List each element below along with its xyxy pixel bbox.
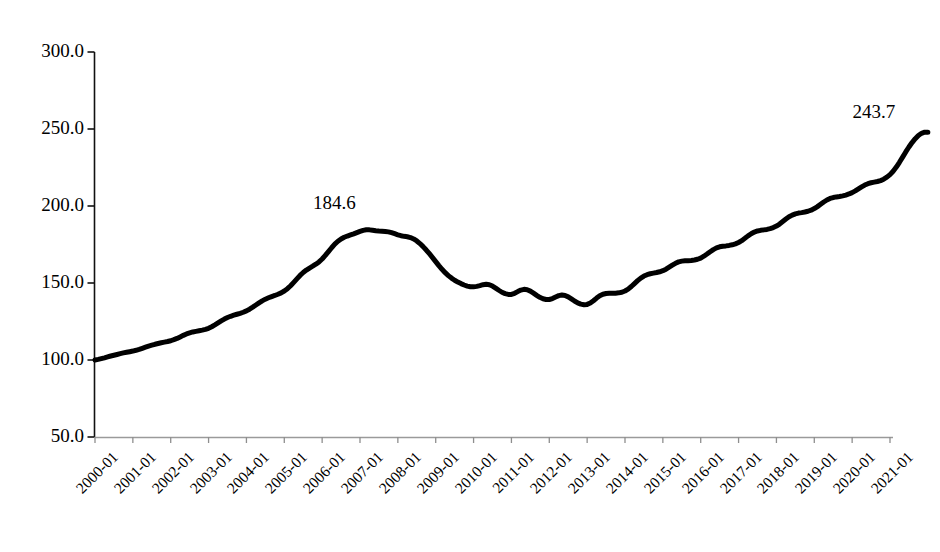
y-axis-tick-label: 50.0 [0,425,84,447]
line-chart: 300.0250.0200.0150.0100.050.0 2000-01200… [0,0,940,552]
axis-lines [95,52,894,438]
y-axis-tick-label: 250.0 [0,117,84,139]
data-point-annotation: 184.6 [313,192,356,214]
y-axis-tick-label: 100.0 [0,348,84,370]
y-axis-ticks [88,52,95,437]
y-axis-tick-label: 300.0 [0,40,84,62]
data-point-annotation: 243.7 [853,101,896,123]
y-axis-tick-label: 150.0 [0,271,84,293]
series-line-index [95,132,928,360]
y-axis-tick-label: 200.0 [0,194,84,216]
